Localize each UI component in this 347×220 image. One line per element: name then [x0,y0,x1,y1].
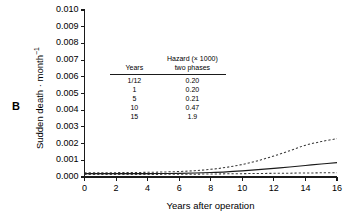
table-row: 1/120.20 [110,76,226,85]
table-row: 100.47 [110,103,226,112]
cell-years: 1 [110,85,159,94]
cell-hazard: 0.47 [159,103,226,112]
series-hazard-estimate [85,163,338,174]
series-upper-confidence-limit [85,139,338,173]
cell-hazard: 1.9 [159,112,226,121]
cell-years: 10 [110,103,159,112]
table-row: 10.20 [110,85,226,94]
table-header-row: Years Hazard (× 1000) two phases [110,55,226,72]
table-body: 1/120.2010.2050.21100.47151.9 [110,76,226,121]
inset-hazard-table: Years Hazard (× 1000) two phases 1/120.2… [110,55,226,121]
x-axis-ticks [85,177,338,181]
table-header-years: Years [110,55,159,72]
cell-hazard: 0.21 [159,94,226,103]
cell-years: 1/12 [110,76,159,85]
cell-hazard: 0.20 [159,85,226,94]
table-row: 50.21 [110,94,226,103]
table-row: 151.9 [110,112,226,121]
data-series-group [85,139,338,175]
cell-hazard: 0.20 [159,76,226,85]
cell-years: 15 [110,112,159,121]
cell-years: 5 [110,94,159,103]
y-axis-ticks [81,10,85,177]
table-header-hazard: Hazard (× 1000) two phases [159,55,226,72]
